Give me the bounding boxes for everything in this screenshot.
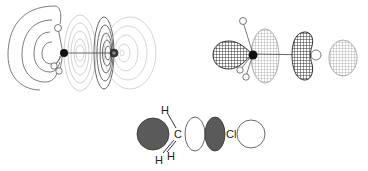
positive-lobe-chlorine-back xyxy=(205,117,225,151)
label-h-bottom-right: H xyxy=(167,150,175,162)
schematic: H C H H Cl xyxy=(137,104,265,166)
positive-lobe-carbon-back xyxy=(137,118,169,150)
negative-lobe-carbon-front xyxy=(185,117,205,151)
label-h-top: H xyxy=(161,104,169,116)
orbital-figure: H C H H Cl xyxy=(0,0,368,171)
label-h-bottom-left: H xyxy=(155,154,163,166)
negative-lobe-chlorine-front xyxy=(237,120,265,148)
contour-plot xyxy=(8,6,156,91)
label-carbon: C xyxy=(174,128,182,140)
wireframe-plot xyxy=(213,18,357,84)
label-chlorine: Cl xyxy=(226,128,236,140)
